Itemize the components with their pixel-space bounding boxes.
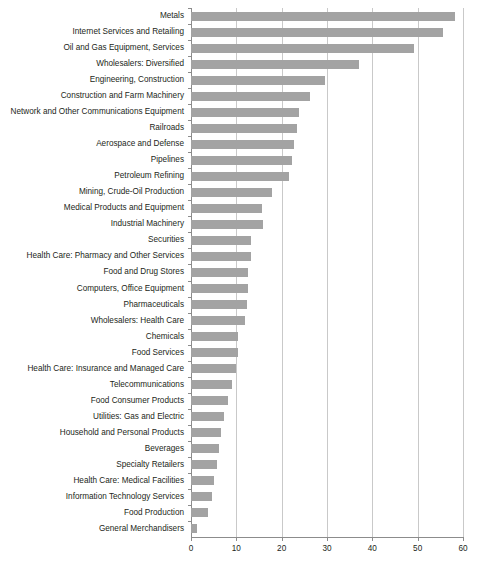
bar xyxy=(191,508,208,517)
y-axis-tick xyxy=(188,281,191,282)
category-label: Specialty Retailers xyxy=(116,457,184,473)
y-axis-tick xyxy=(188,72,191,73)
bar xyxy=(191,172,289,181)
y-axis-tick xyxy=(188,184,191,185)
category-label: Railroads xyxy=(149,120,184,136)
bar xyxy=(191,444,219,453)
bar xyxy=(191,28,443,37)
bar xyxy=(191,252,251,261)
bar xyxy=(191,268,248,277)
y-axis-tick xyxy=(188,168,191,169)
category-label: Industrial Machinery xyxy=(111,216,184,232)
bar-row: Railroads xyxy=(191,120,463,136)
bar-row: Petroleum Refining xyxy=(191,168,463,184)
y-axis-tick xyxy=(188,56,191,57)
bar-row: Mining, Crude-Oil Production xyxy=(191,184,463,200)
bar xyxy=(191,108,299,117)
bars-and-labels: MetalsInternet Services and RetailingOil… xyxy=(191,8,463,537)
plot-area: MetalsInternet Services and RetailingOil… xyxy=(191,8,463,537)
category-label: Wholesalers: Diversified xyxy=(96,56,184,72)
bar-row: Securities xyxy=(191,232,463,248)
y-axis-tick xyxy=(188,489,191,490)
x-axis-tick-label: 20 xyxy=(277,543,286,554)
category-label: Food and Drug Stores xyxy=(103,264,184,280)
x-axis-tick-label: 30 xyxy=(322,543,331,554)
gridline-60 xyxy=(463,8,464,537)
y-axis-tick xyxy=(188,409,191,410)
bar xyxy=(191,460,217,469)
bar-row: Beverages xyxy=(191,441,463,457)
bar-row: Network and Other Communications Equipme… xyxy=(191,104,463,120)
bar-row: Food Services xyxy=(191,345,463,361)
y-axis-tick xyxy=(188,152,191,153)
bar-row: Wholesalers: Health Care xyxy=(191,313,463,329)
bar xyxy=(191,332,238,341)
bar xyxy=(191,204,262,213)
y-axis-tick xyxy=(188,232,191,233)
bar xyxy=(191,236,251,245)
category-label: Health Care: Medical Facilities xyxy=(73,473,184,489)
y-axis-tick xyxy=(188,313,191,314)
category-label: Aerospace and Defense xyxy=(96,136,184,152)
bar-row: Pipelines xyxy=(191,152,463,168)
bar xyxy=(191,220,263,229)
bar xyxy=(191,76,325,85)
x-axis-tick xyxy=(191,537,192,541)
category-label: Food Services xyxy=(132,345,184,361)
bar-row: Wholesalers: Diversified xyxy=(191,56,463,72)
y-axis-tick xyxy=(188,361,191,362)
bar-row: Medical Products and Equipment xyxy=(191,200,463,216)
category-label: Securities xyxy=(148,232,184,248)
bar-row: Telecommunications xyxy=(191,377,463,393)
bar-row: Industrial Machinery xyxy=(191,216,463,232)
bar-row: Pharmaceuticals xyxy=(191,297,463,313)
bar xyxy=(191,300,247,309)
bar-row: General Merchandisers xyxy=(191,521,463,537)
y-axis-tick xyxy=(188,521,191,522)
x-axis-tick-label: 40 xyxy=(368,543,377,554)
y-axis-tick xyxy=(188,264,191,265)
bar-row: Utilities: Gas and Electric xyxy=(191,409,463,425)
category-label: Pharmaceuticals xyxy=(123,297,184,313)
bar-row: Health Care: Medical Facilities xyxy=(191,473,463,489)
category-label: Food Consumer Products xyxy=(91,393,184,409)
bar xyxy=(191,316,245,325)
bar-row: Aerospace and Defense xyxy=(191,136,463,152)
bar xyxy=(191,476,214,485)
y-axis-tick xyxy=(188,297,191,298)
bar xyxy=(191,412,224,421)
bar-row: Food and Drug Stores xyxy=(191,264,463,280)
y-axis-tick xyxy=(188,200,191,201)
bar-row: Oil and Gas Equipment, Services xyxy=(191,40,463,56)
bar xyxy=(191,124,297,133)
y-axis-tick xyxy=(188,24,191,25)
category-label: General Merchandisers xyxy=(99,521,184,537)
category-label: Information Technology Services xyxy=(66,489,184,505)
y-axis-tick xyxy=(188,40,191,41)
bar xyxy=(191,44,414,53)
category-label: Engineering, Construction xyxy=(90,72,184,88)
category-label: Computers, Office Equipment xyxy=(77,281,184,297)
y-axis-tick xyxy=(188,104,191,105)
bar xyxy=(191,396,228,405)
bar xyxy=(191,92,310,101)
y-axis-tick xyxy=(188,473,191,474)
y-axis-tick xyxy=(188,88,191,89)
x-axis-tick xyxy=(463,537,464,541)
bar-row: Health Care: Insurance and Managed Care xyxy=(191,361,463,377)
category-label: Oil and Gas Equipment, Services xyxy=(63,40,184,56)
y-axis-tick xyxy=(188,505,191,506)
y-axis-tick xyxy=(188,8,191,9)
category-label: Petroleum Refining xyxy=(114,168,184,184)
category-label: Food Production xyxy=(124,505,184,521)
bar xyxy=(191,284,248,293)
x-axis-tick xyxy=(418,537,419,541)
bar-row: Chemicals xyxy=(191,329,463,345)
bar xyxy=(191,380,232,389)
category-label: Utilities: Gas and Electric xyxy=(93,409,184,425)
horizontal-bar-chart: MetalsInternet Services and RetailingOil… xyxy=(0,0,480,563)
category-label: Metals xyxy=(160,8,184,24)
x-axis-tick xyxy=(236,537,237,541)
bar-row: Specialty Retailers xyxy=(191,457,463,473)
y-axis-tick xyxy=(188,425,191,426)
